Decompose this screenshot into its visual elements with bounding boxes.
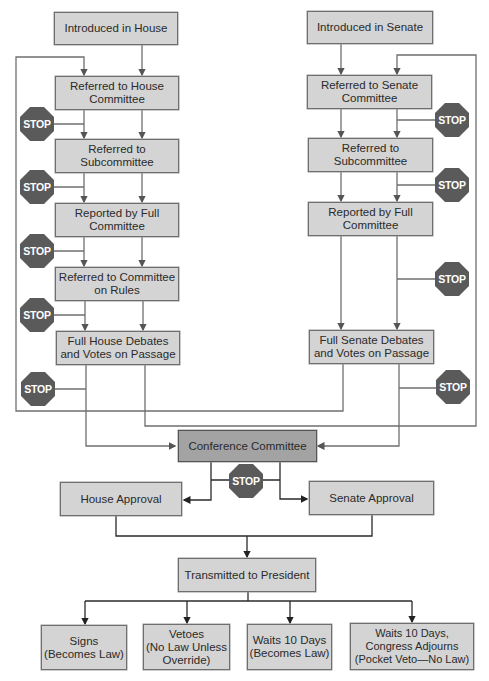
stop-icon: STOP <box>20 298 54 332</box>
stop-icon: STOP <box>229 464 263 498</box>
senate-approval-label: Senate Approval <box>329 492 413 505</box>
outcome-label: Waits 10 Days (Becomes Law) <box>250 634 330 660</box>
house-reported-label: Reported by Full Committee <box>75 207 159 233</box>
senate-introduced-label: Introduced in Senate <box>317 21 423 34</box>
senate-reported-label: Reported by Full Committee <box>328 206 412 232</box>
senate-subcommittee-box: Referred to Subcommittee <box>308 138 433 172</box>
stop-icon: STOP <box>435 168 469 202</box>
house-subcommittee-label: Referred to Subcommittee <box>80 143 154 169</box>
house-introduced-box: Introduced in House <box>54 12 178 45</box>
senate-committee-label: Referred to Senate Committee <box>321 79 418 105</box>
senate-debate-label: Full Senate Debates and Votes on Passage <box>314 334 429 360</box>
house-debate-label: Full House Debates and Votes on Passage <box>60 335 175 361</box>
conference-committee-box: Conference Committee <box>178 430 317 462</box>
senate-debate-box: Full Senate Debates and Votes on Passage <box>309 330 434 364</box>
bill-to-law-flowchart: Introduced in House Referred to House Co… <box>0 0 489 681</box>
stop-icon: STOP <box>20 107 54 141</box>
senate-introduced-box: Introduced in Senate <box>307 11 433 44</box>
house-approval-label: House Approval <box>80 493 161 506</box>
house-rules-box: Referred to Committee on Rules <box>55 267 179 301</box>
house-committee-label: Referred to House Committee <box>70 80 164 106</box>
outcome-waits-box: Waits 10 Days (Becomes Law) <box>247 624 332 670</box>
senate-approval-box: Senate Approval <box>309 481 434 515</box>
stop-icon: STOP <box>435 262 469 296</box>
outcome-label: Vetoes (No Law Unless Override) <box>146 628 227 667</box>
stop-icon: STOP <box>436 370 470 404</box>
president-label: Transmitted to President <box>185 569 310 582</box>
stop-icon: STOP <box>21 372 55 406</box>
outcome-pocket-veto-box: Waits 10 Days, Congress Adjourns (Pocket… <box>350 623 474 670</box>
house-committee-box: Referred to House Committee <box>55 76 179 110</box>
house-introduced-label: Introduced in House <box>65 22 168 35</box>
stop-icon: STOP <box>20 170 54 204</box>
senate-reported-box: Reported by Full Committee <box>308 202 433 236</box>
senate-subcommittee-label: Referred to Subcommittee <box>334 142 408 168</box>
outcome-vetoes-box: Vetoes (No Law Unless Override) <box>143 624 230 670</box>
outcome-signs-box: Signs (Becomes Law) <box>41 625 127 670</box>
conference-committee-label: Conference Committee <box>188 440 306 453</box>
stop-icon: STOP <box>435 103 469 137</box>
outcome-label: Waits 10 Days, Congress Adjourns (Pocket… <box>355 627 469 666</box>
president-box: Transmitted to President <box>178 558 316 592</box>
house-rules-label: Referred to Committee on Rules <box>59 271 175 297</box>
outcome-label: Signs (Becomes Law) <box>44 635 124 661</box>
house-approval-box: House Approval <box>60 482 182 516</box>
senate-committee-box: Referred to Senate Committee <box>307 75 432 109</box>
stop-icon: STOP <box>20 234 54 268</box>
house-subcommittee-box: Referred to Subcommittee <box>55 139 179 173</box>
house-debate-box: Full House Debates and Votes on Passage <box>56 331 180 365</box>
house-reported-box: Reported by Full Committee <box>55 203 179 237</box>
